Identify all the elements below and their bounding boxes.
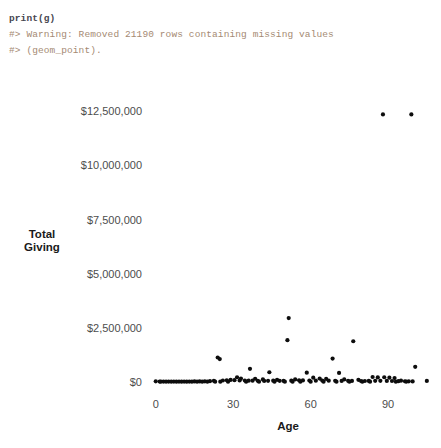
scatter-point xyxy=(262,379,266,383)
scatter-point xyxy=(250,379,254,383)
scatter-point xyxy=(287,316,291,320)
y-axis-tick-label: $10,000,000 xyxy=(81,159,142,171)
y-axis-tick-label: $7,500,000 xyxy=(87,214,142,226)
scatter-point xyxy=(409,112,413,116)
scatter-points-layer xyxy=(154,112,429,383)
scatter-point xyxy=(340,379,344,383)
x-axis-title: Age xyxy=(248,420,328,433)
scatter-point xyxy=(200,380,204,384)
scatter-point xyxy=(226,380,230,384)
scatter-point xyxy=(309,380,313,384)
scatter-point xyxy=(285,338,289,342)
scatter-point xyxy=(290,380,294,384)
scatter-point xyxy=(283,380,287,384)
scatter-point xyxy=(314,379,318,383)
scatter-point xyxy=(413,365,417,369)
scatter-point xyxy=(272,380,276,384)
scatter-point xyxy=(334,380,338,384)
scatter-point xyxy=(154,379,158,383)
scatter-point xyxy=(298,380,302,384)
scatter-point xyxy=(267,370,271,374)
scatter-point xyxy=(404,380,408,384)
scatter-point xyxy=(190,380,194,384)
scatter-point xyxy=(213,380,217,384)
scatter-point xyxy=(305,371,309,375)
scatter-point xyxy=(159,380,163,384)
scatter-point xyxy=(382,375,386,379)
scatter-point xyxy=(425,379,429,383)
scatter-point xyxy=(266,379,270,383)
x-axis-tick-label: 30 xyxy=(227,398,239,410)
scatter-plot-canvas xyxy=(0,0,441,448)
y-axis-tick-label: $5,000,000 xyxy=(87,268,142,280)
scatter-point xyxy=(378,379,382,383)
scatter-point xyxy=(337,371,341,375)
scatter-point xyxy=(376,375,380,379)
scatter-point xyxy=(360,380,364,384)
x-axis-tick-label: 60 xyxy=(305,398,317,410)
scatter-point xyxy=(368,380,372,384)
scatter-point xyxy=(351,339,355,343)
scatter-point xyxy=(381,112,385,116)
scatter-point xyxy=(411,379,415,383)
scatter-point xyxy=(174,380,178,384)
scatter-point xyxy=(257,380,261,384)
scatter-point xyxy=(195,380,199,384)
y-axis-tick-label: $2,500,000 xyxy=(87,322,142,334)
scatter-point xyxy=(218,380,222,384)
scatter-point xyxy=(164,380,168,384)
scatter-point xyxy=(278,379,282,383)
y-axis-title: Total Giving xyxy=(8,228,76,254)
scatter-point xyxy=(248,367,252,371)
scatter-point xyxy=(327,379,331,383)
scatter-point xyxy=(205,380,209,384)
scatter-point xyxy=(331,357,335,361)
x-axis-tick-label: 0 xyxy=(153,398,159,410)
y-axis-tick-label: $0 xyxy=(130,376,142,388)
scatter-plot: $0$2,500,000$5,000,000$7,500,000$10,000,… xyxy=(0,0,441,448)
scatter-point xyxy=(321,380,325,384)
scatter-point xyxy=(169,380,173,384)
scatter-point xyxy=(232,378,236,382)
y-axis-tick-label: $12,500,000 xyxy=(81,105,142,117)
scatter-point xyxy=(371,375,375,379)
scatter-point xyxy=(394,380,398,384)
x-axis-tick-label: 90 xyxy=(382,398,394,410)
scatter-point xyxy=(373,379,377,383)
scatter-point xyxy=(390,379,394,383)
scatter-point xyxy=(179,380,183,384)
scatter-point xyxy=(238,378,242,382)
scatter-point xyxy=(385,379,389,383)
scatter-point xyxy=(185,380,189,384)
scatter-point xyxy=(218,357,222,361)
scatter-point xyxy=(347,380,351,384)
scatter-point xyxy=(244,380,248,384)
